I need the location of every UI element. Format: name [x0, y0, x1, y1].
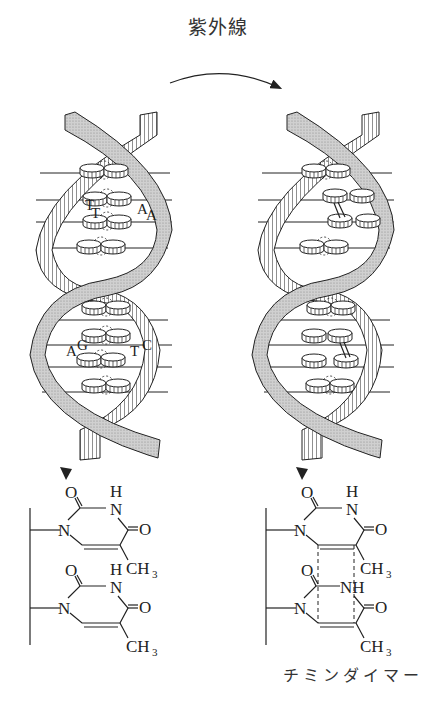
- svg-text:N: N: [346, 500, 358, 519]
- svg-text:3: 3: [386, 646, 392, 658]
- svg-text:3: 3: [152, 568, 158, 580]
- base-label-a: A: [66, 343, 77, 359]
- svg-text:O: O: [65, 483, 77, 502]
- svg-text:N: N: [294, 521, 306, 540]
- svg-text:N: N: [58, 599, 70, 618]
- svg-text:CH: CH: [126, 559, 150, 578]
- base-label-t: T: [130, 343, 139, 359]
- svg-text:N: N: [58, 521, 70, 540]
- svg-text:CH: CH: [360, 637, 384, 656]
- svg-text:CH: CH: [360, 559, 384, 578]
- svg-text:O: O: [301, 561, 313, 580]
- svg-text:O: O: [139, 520, 151, 539]
- svg-text:O: O: [375, 520, 387, 539]
- thymine-dimer-caption: チミンダイマー: [283, 662, 423, 686]
- base-label-t2: T: [91, 205, 100, 221]
- svg-text:O: O: [375, 598, 387, 617]
- svg-text:CH: CH: [126, 637, 150, 656]
- base-label-g: G: [77, 337, 88, 353]
- thymine-pair-labels: O H N O N CH3 O H N O N CH3: [58, 482, 158, 658]
- dna-helix-normal: T T A A A G T C: [30, 112, 172, 460]
- svg-text:O: O: [65, 561, 77, 580]
- svg-text:O: O: [139, 598, 151, 617]
- svg-text:3: 3: [386, 568, 392, 580]
- svg-text:H: H: [110, 560, 122, 579]
- svg-text:N: N: [294, 599, 306, 618]
- dna-helix-thymine-dimer: [252, 112, 394, 460]
- svg-text:H: H: [110, 482, 122, 501]
- arrow-icon: [170, 74, 280, 88]
- svg-text:3: 3: [152, 646, 158, 658]
- svg-text:N: N: [110, 578, 122, 597]
- base-label-c: C: [142, 337, 152, 353]
- base-label-a2: A: [146, 207, 157, 223]
- svg-text:H: H: [346, 482, 358, 501]
- thymine-dimer-labels: O H N O N CH3 O NH O N CH3: [294, 482, 392, 658]
- svg-text:O: O: [301, 483, 313, 502]
- dna-diagram: T T A A A G T C: [0, 0, 435, 709]
- svg-text:NH: NH: [340, 578, 365, 597]
- svg-text:N: N: [110, 500, 122, 519]
